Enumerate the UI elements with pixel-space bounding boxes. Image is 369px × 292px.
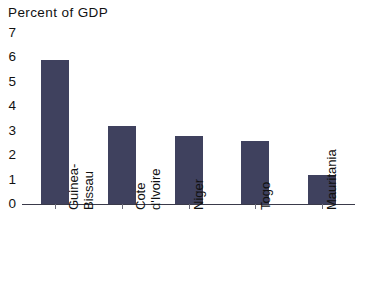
x-axis-tick-mark — [122, 204, 123, 209]
y-axis-tick-6: 6 — [8, 51, 16, 65]
bar-cote-d-ivoire — [108, 126, 136, 204]
x-axis-label-guinea-bissau: Guinea-Bissau — [66, 164, 96, 210]
bar-chart-figure: Percent of GDP 76543210 Guinea-BissauCot… — [0, 0, 369, 292]
x-axis-tick-mark — [55, 204, 56, 209]
x-axis-label-cote-d-ivoire: Coted'Ivoire — [133, 168, 163, 210]
x-axis-label-line: Cote — [133, 183, 148, 210]
y-axis-tick-2: 2 — [8, 148, 16, 162]
y-axis-tick-5: 5 — [8, 75, 16, 89]
y-axis-tick-0: 0 — [8, 197, 16, 211]
x-axis-label-line: Niger — [191, 179, 206, 210]
y-axis-tick-3: 3 — [8, 124, 16, 138]
x-axis-label-mauritania: Mauritania — [325, 149, 339, 210]
x-axis-tick-mark — [255, 204, 256, 209]
y-axis-tick-4: 4 — [8, 100, 16, 114]
x-axis-category-labels: Guinea-BissauCoted'IvoireNigerTogoMaurit… — [22, 210, 355, 292]
y-axis-tick-7: 7 — [8, 26, 16, 40]
x-axis-label-niger: Niger — [192, 179, 206, 210]
x-axis-label-line: Togo — [258, 182, 273, 210]
x-axis-tick-mark — [189, 204, 190, 209]
x-axis-label-line: Bissau — [81, 164, 96, 210]
chart-title: Percent of GDP — [8, 5, 108, 20]
x-axis-label-line: Guinea- — [66, 164, 81, 210]
x-axis-label-line: Mauritania — [324, 149, 339, 210]
x-axis-label-line: d'Ivoire — [148, 168, 163, 210]
y-axis-tick-1: 1 — [8, 173, 16, 187]
x-axis-tick-mark — [322, 204, 323, 209]
x-axis-label-togo: Togo — [259, 182, 273, 210]
